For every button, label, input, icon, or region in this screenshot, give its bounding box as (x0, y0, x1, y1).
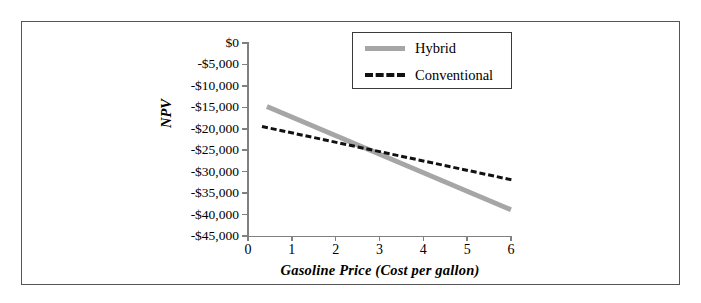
y-tick (242, 192, 247, 194)
legend-label: Conventional (415, 65, 493, 85)
y-tick (242, 171, 247, 173)
legend-item-hybrid: Hybrid (353, 36, 511, 60)
y-tick (242, 128, 247, 130)
x-tick-label: 1 (288, 243, 295, 257)
plot-area: $0-$5,000-$10,000-$15,000-$20,000-$25,00… (0, 0, 701, 303)
figure-canvas: $0-$5,000-$10,000-$15,000-$20,000-$25,00… (0, 0, 701, 303)
y-axis-line (247, 42, 249, 237)
x-tick-label: 6 (508, 243, 515, 257)
x-tick-label: 5 (464, 243, 471, 257)
x-tick-label: 2 (332, 243, 339, 257)
y-tick (242, 214, 247, 216)
legend-dashed-line-swatch-icon (365, 73, 405, 77)
y-tick (242, 235, 247, 237)
x-tick (335, 236, 337, 241)
y-tick (242, 42, 247, 44)
chart-legend: Hybrid Conventional (352, 32, 512, 89)
x-tick (510, 236, 512, 241)
x-tick (423, 236, 425, 241)
x-tick (379, 236, 381, 241)
y-tick (242, 107, 247, 109)
y-tick (242, 64, 247, 66)
y-tick (242, 85, 247, 87)
series-line-conventional (262, 125, 512, 181)
y-axis-title: NPV (158, 99, 175, 128)
x-tick-label: 0 (245, 243, 252, 257)
x-tick (247, 236, 249, 241)
x-tick-label: 4 (420, 243, 427, 257)
legend-item-conventional: Conventional (353, 63, 511, 87)
x-tick (291, 236, 293, 241)
series-line-hybrid (266, 104, 512, 212)
x-axis-title: Gasoline Price (Cost per gallon) (248, 262, 512, 279)
legend-label: Hybrid (415, 38, 456, 58)
legend-solid-line-swatch-icon (365, 46, 405, 51)
x-tick-label: 3 (376, 243, 383, 257)
y-tick (242, 149, 247, 151)
x-tick (466, 236, 468, 241)
